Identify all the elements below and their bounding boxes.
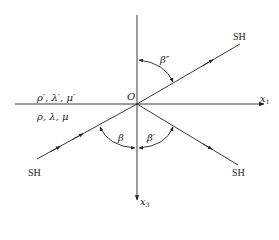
incident-ray-arrow-1 [50, 146, 60, 152]
angle-label-refracted: β″ [160, 55, 170, 65]
x3-axis-label: x3 [140, 197, 149, 208]
refracted-ray [137, 44, 240, 104]
angle-label-incident: β [118, 133, 124, 143]
reflected-ray-label: SH [232, 168, 245, 178]
incident-ray-arrow-2 [73, 134, 83, 140]
refracted-ray-arrow [203, 60, 213, 66]
x3-axis-subscript: 3 [146, 201, 150, 208]
x1-axis-label: x1 [260, 94, 269, 105]
refracted-ray-label: SH [233, 32, 246, 42]
reflected-ray-arrow [202, 143, 212, 149]
x1-axis-subscript: 1 [266, 98, 270, 105]
upper-medium-label: ρ′, λ′, μ′ [37, 93, 75, 103]
incident-ray-label: SH [28, 168, 41, 178]
lower-medium-label: ρ, λ, μ [37, 112, 68, 122]
origin-label: O [127, 92, 135, 102]
angle-label-reflected: β′ [147, 133, 155, 143]
angle-arc-reflected [139, 127, 173, 148]
